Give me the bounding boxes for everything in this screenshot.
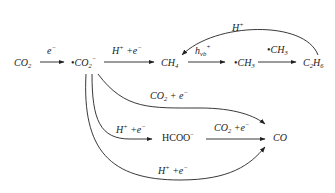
node-c2h6: C2H6 bbox=[303, 57, 324, 69]
label-methyl-radical: •CH3 bbox=[267, 44, 288, 56]
label-proton-loop: H+ bbox=[231, 21, 244, 33]
node-ch3-radical: •CH3 bbox=[234, 57, 255, 69]
label-valence-band-hole: hvb+ bbox=[195, 43, 211, 57]
label-electron: e− bbox=[47, 44, 56, 56]
label-proton-electron-ch4: H+ +e− bbox=[111, 44, 142, 56]
label-co2-electron-hcoo: CO2 +e− bbox=[214, 121, 249, 134]
node-co2: CO2 bbox=[14, 57, 32, 69]
label-proton-electron-hcoo: H+ +e− bbox=[115, 123, 146, 135]
node-ch4: CH4 bbox=[161, 57, 179, 69]
co2-reduction-pathway-diagram: CO2 •CO2− CH4 •CH3 C2H6 HCOO− CO e− H+ +… bbox=[0, 0, 335, 193]
node-hcoo-anion: HCOO− bbox=[162, 131, 194, 143]
node-co: CO bbox=[273, 132, 287, 143]
label-proton-electron-bottom: H+ +e− bbox=[157, 164, 188, 176]
label-co2-electron-top: CO2 + e− bbox=[150, 89, 188, 102]
node-co2-radical-anion: •CO2− bbox=[71, 55, 96, 69]
